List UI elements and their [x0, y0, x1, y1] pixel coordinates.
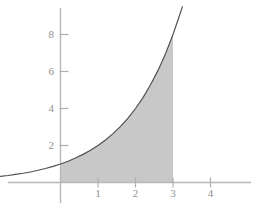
y-tick-label-6: 6 — [40, 66, 54, 77]
y-tick-label-2: 2 — [40, 140, 54, 151]
y-tick-label-4: 4 — [40, 103, 54, 114]
x-tick-label-2: 2 — [129, 188, 143, 199]
y-tick-label-8: 8 — [40, 29, 54, 40]
shaded-area-group — [61, 35, 174, 183]
plot-area — [0, 0, 259, 215]
x-tick-label-3: 3 — [166, 188, 180, 199]
x-tick-label-1: 1 — [91, 188, 105, 199]
exponential-area-chart: 1234 2468 — [0, 0, 259, 215]
x-tick-label-4: 4 — [204, 188, 218, 199]
shaded-area-under-curve — [61, 35, 174, 183]
